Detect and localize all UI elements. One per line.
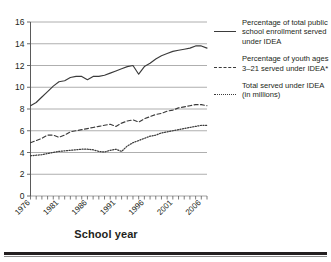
y-axis-tick-label: 12 xyxy=(15,61,25,71)
legend-item-label: Total served under IDEA (in millions) xyxy=(242,81,331,100)
y-axis-tick-label: 8 xyxy=(20,104,25,114)
data-series-line-1 xyxy=(31,46,208,106)
legend-swatch-dashed-line-icon xyxy=(214,67,236,69)
x-axis-title: School year xyxy=(0,228,212,240)
legend-item-label: Percentage of youth ages 3–21 served und… xyxy=(242,54,331,73)
x-axis-tick-label: 1976 xyxy=(13,198,32,217)
data-series-line-3 xyxy=(31,125,208,155)
y-axis-tick-label: 10 xyxy=(15,82,25,92)
chart-figure: 0246810121416197619811986199119962001200… xyxy=(0,0,331,262)
legend-swatch-dotted-line-icon xyxy=(214,94,236,96)
legend-item-label: Percentage of total public school enroll… xyxy=(242,18,331,46)
y-axis-tick-label: 2 xyxy=(20,169,25,179)
bottom-divider-rule xyxy=(4,252,327,255)
y-axis-tick-label: 6 xyxy=(20,126,25,136)
legend-item-youth-percentage: Percentage of youth ages 3–21 served und… xyxy=(214,54,331,73)
x-axis-tick-label: 2006 xyxy=(184,198,203,217)
legend-swatch-solid-line-icon xyxy=(214,31,236,33)
data-series-line-2 xyxy=(31,105,208,143)
y-axis-tick-label: 16 xyxy=(15,17,25,27)
bottom-divider-rule-thin xyxy=(4,256,327,257)
x-axis-tick-label: 1981 xyxy=(41,198,60,217)
x-axis-tick-label: 1996 xyxy=(127,198,146,217)
legend-item-total-served-millions: Total served under IDEA (in millions) xyxy=(214,81,331,100)
y-axis-tick-label: 14 xyxy=(15,39,25,49)
x-axis-tick-label: 1991 xyxy=(98,198,117,217)
y-axis-tick-label: 4 xyxy=(20,148,25,158)
x-axis-tick-label: 1986 xyxy=(70,198,89,217)
x-axis-tick-label: 2001 xyxy=(155,198,174,217)
legend-item-total-enrollment-percentage: Percentage of total public school enroll… xyxy=(214,18,331,46)
chart-legend: Percentage of total public school enroll… xyxy=(214,18,331,108)
